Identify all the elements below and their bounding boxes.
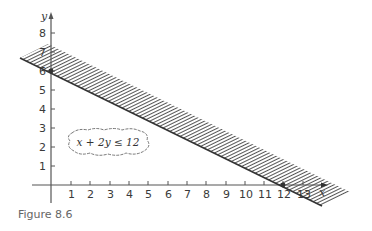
inequality-label: x + 2y ≤ 12 [77, 136, 140, 148]
y-tick-label: 1 [39, 160, 46, 173]
x-tick-label: 2 [87, 188, 94, 201]
x-axis-label: x [319, 186, 326, 199]
inequality-annotation: x + 2y ≤ 12 [68, 129, 149, 156]
x-tick-label: 10 [239, 188, 253, 201]
x-tick-label: 8 [203, 188, 210, 201]
inequality-graph: y 1 2 3 4 5 6 7 8 x [0, 0, 372, 231]
y-tick-label: 7 [39, 46, 46, 59]
y-tick-label: 5 [39, 84, 46, 97]
y-tick-label: 4 [39, 103, 46, 116]
x-tick-label: 3 [107, 188, 114, 201]
y-axis: y 1 2 3 4 5 6 7 8 [39, 10, 55, 203]
y-axis-arrow-icon [49, 12, 54, 19]
x-tick-label: 6 [165, 188, 172, 201]
y-tick-label: 8 [39, 27, 46, 40]
figure-caption: Figure 8.6 [18, 208, 73, 221]
x-tick-label: 4 [126, 188, 133, 201]
y-intercept-point [49, 69, 54, 74]
boundary-line [20, 58, 322, 206]
x-tick-label: 5 [145, 188, 152, 201]
y-tick-label: 3 [39, 122, 46, 135]
x-tick-label: 7 [184, 188, 191, 201]
hatched-region [20, 44, 350, 206]
x-tick-label: 11 [258, 188, 272, 201]
x-intercept-point [281, 183, 286, 188]
y-tick-label: 2 [39, 141, 46, 154]
x-tick-label: 9 [223, 188, 230, 201]
x-tick-label: 1 [68, 188, 75, 201]
y-axis-label: y [40, 10, 48, 23]
